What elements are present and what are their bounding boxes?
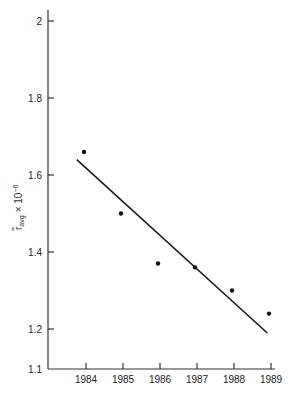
y-tick-label: 1.1 (28, 364, 42, 375)
y-tick-label: 1.8 (28, 93, 42, 104)
x-tick-label: 1984 (75, 374, 98, 385)
chart: 1.11.21.41.61.82 19841985198619871988198… (0, 0, 294, 394)
x-tick-label: 1989 (260, 374, 283, 385)
axes (48, 10, 275, 369)
fit-line (77, 160, 268, 333)
data-point (156, 261, 160, 265)
data-point (82, 150, 86, 154)
x-tick-label: 1985 (112, 374, 135, 385)
y-axis-label: r̃avg× 10−6 (12, 185, 26, 232)
data-point (230, 288, 234, 292)
y-tick-label: 2 (36, 16, 42, 27)
data-point (267, 311, 271, 315)
data-point (119, 211, 123, 215)
x-tick-label: 1987 (186, 374, 209, 385)
y-ticks: 1.11.21.41.61.82 (28, 16, 54, 375)
svg-text:r̃avg× 10−6: r̃avg× 10−6 (12, 185, 26, 232)
y-tick-label: 1.6 (28, 170, 42, 181)
y-tick-label: 1.2 (28, 324, 42, 335)
data-point (193, 265, 197, 269)
data-points (82, 150, 271, 316)
x-ticks: 198419851986198719881989 (75, 363, 283, 385)
x-tick-label: 1988 (223, 374, 246, 385)
y-tick-label: 1.4 (28, 247, 42, 258)
x-tick-label: 1986 (149, 374, 172, 385)
